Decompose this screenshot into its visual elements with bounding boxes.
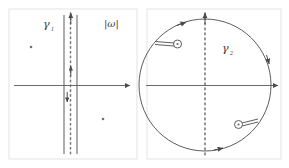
gamma-2-subscript: 2 — [229, 50, 233, 56]
pole-lower-right — [102, 118, 105, 121]
left-panel-border — [9, 9, 137, 159]
pole-upper-left — [30, 46, 33, 49]
gamma-1-subscript: 1 — [51, 26, 54, 32]
left-panel: γ 1 |ω| — [9, 9, 137, 159]
gamma-2-glyph: γ — [222, 42, 229, 55]
right-panel: γ 2 — [139, 9, 281, 159]
contour-figure: γ 1 |ω| — [0, 0, 289, 168]
pole-dot-upper-left — [176, 43, 178, 45]
gamma-1-glyph: γ — [43, 18, 50, 31]
pole-dot-lower-right — [237, 123, 239, 125]
omega-modulus-label: |ω| — [104, 18, 119, 30]
figure-canvas: γ 1 |ω| — [0, 0, 289, 168]
